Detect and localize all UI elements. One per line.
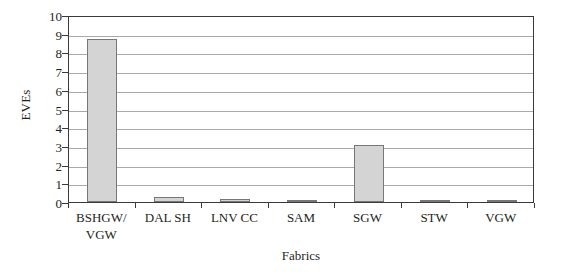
bar	[354, 145, 384, 202]
bar	[154, 197, 184, 202]
x-tick-mark	[534, 203, 535, 208]
plot-area	[68, 16, 534, 203]
x-tick-mark	[68, 203, 69, 208]
x-tick-label-line: STW	[401, 209, 468, 226]
x-tick-label-line: VGW	[68, 226, 135, 243]
x-tick-label-line: BSHGW/	[68, 209, 135, 226]
bar-chart-figure: EVEs 012345678910 BSHGW/VGWDAL SHLNV CCS…	[0, 0, 563, 272]
y-axis-title-text: EVEs	[18, 89, 34, 120]
bar	[420, 200, 450, 202]
x-tick-label-line: LNV CC	[201, 209, 268, 226]
x-axis-tick-labels: BSHGW/VGWDAL SHLNV CCSAMSGWSTWVGW	[68, 209, 534, 253]
bars-layer	[69, 17, 533, 202]
x-tick-label: SGW	[334, 209, 401, 226]
bar	[487, 200, 517, 202]
x-tick-label: SAM	[268, 209, 335, 226]
x-tick-mark	[467, 203, 468, 208]
x-tick-mark	[268, 203, 269, 208]
x-tick-label: STW	[401, 209, 468, 226]
x-axis-title: Fabrics	[68, 248, 534, 264]
x-tick-mark	[201, 203, 202, 208]
x-tick-label: BSHGW/VGW	[68, 209, 135, 243]
x-tick-label-line: DAL SH	[135, 209, 202, 226]
y-tick-label: 10	[49, 10, 62, 23]
x-tick-mark	[401, 203, 402, 208]
x-tick-label-line: SGW	[334, 209, 401, 226]
x-tick-label: DAL SH	[135, 209, 202, 226]
bar	[87, 39, 117, 202]
x-tick-mark	[334, 203, 335, 208]
x-tick-label: LNV CC	[201, 209, 268, 226]
x-tick-label-line: SAM	[268, 209, 335, 226]
x-tick-label-line: VGW	[467, 209, 534, 226]
y-axis-tick-labels: 012345678910	[40, 16, 62, 203]
bar	[220, 199, 250, 202]
x-tick-mark	[135, 203, 136, 208]
bar	[287, 200, 317, 202]
x-tick-label: VGW	[467, 209, 534, 226]
